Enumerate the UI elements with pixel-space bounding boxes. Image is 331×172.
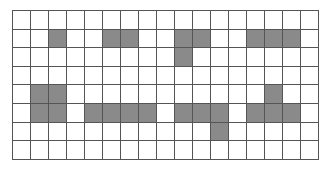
grid-cell-filled [210, 103, 228, 122]
grid-cell [102, 122, 120, 141]
grid-cell [210, 10, 228, 29]
grid-cell [156, 84, 174, 103]
grid-cell-filled [48, 103, 66, 122]
grid-cell [246, 47, 264, 66]
grid-cell [66, 103, 84, 122]
grid-cell [228, 103, 246, 122]
grid-cell [174, 140, 192, 159]
grid-cell [120, 10, 138, 29]
grid-cell [264, 10, 282, 29]
grid-cell [48, 66, 66, 85]
grid-cell [228, 66, 246, 85]
grid-cell [84, 122, 102, 141]
grid-cell [66, 122, 84, 141]
grid-cell [66, 10, 84, 29]
grid-cell [300, 84, 318, 103]
grid-cell [138, 47, 156, 66]
grid-cell-filled [264, 84, 282, 103]
grid-cell-filled [282, 29, 300, 48]
grid-cell [156, 47, 174, 66]
grid-cell [174, 84, 192, 103]
grid-cell-filled [102, 29, 120, 48]
grid-cell [84, 10, 102, 29]
grid-cell [192, 10, 210, 29]
grid-cell-filled [264, 29, 282, 48]
grid-cell [282, 122, 300, 141]
grid-cell [228, 47, 246, 66]
grid-cell-filled [48, 84, 66, 103]
grid-cell [156, 140, 174, 159]
grid-cell [210, 84, 228, 103]
grid-cell [12, 103, 30, 122]
grid-cell [30, 122, 48, 141]
grid-cell [30, 140, 48, 159]
grid-cell [84, 140, 102, 159]
grid-cell [30, 10, 48, 29]
grid-cell-filled [174, 103, 192, 122]
grid-cell [120, 140, 138, 159]
grid-cell [66, 47, 84, 66]
grid-cell [66, 84, 84, 103]
grid-cell [12, 122, 30, 141]
grid-cell [138, 66, 156, 85]
grid-cell [138, 10, 156, 29]
grid-cell-filled [174, 47, 192, 66]
grid-cell [156, 29, 174, 48]
grid-cell [156, 103, 174, 122]
grid-cell [264, 47, 282, 66]
grid-cell-filled [48, 29, 66, 48]
grid-cell-filled [120, 29, 138, 48]
grid-cell [48, 140, 66, 159]
grid-cell [156, 10, 174, 29]
grid-cell [102, 140, 120, 159]
grid-cell-filled [282, 103, 300, 122]
grid-cell [228, 29, 246, 48]
grid-cell [228, 140, 246, 159]
grid-cell-filled [192, 29, 210, 48]
grid-cell [30, 29, 48, 48]
grid-cell [282, 84, 300, 103]
grid-cell [192, 140, 210, 159]
shaded-grid [12, 10, 319, 160]
grid-cell [66, 29, 84, 48]
grid-cell [12, 84, 30, 103]
grid-cell [282, 140, 300, 159]
grid-cell [264, 66, 282, 85]
grid-cell [282, 66, 300, 85]
grid-cell-filled [174, 29, 192, 48]
grid-cell [138, 122, 156, 141]
grid-cell-filled [102, 103, 120, 122]
grid-cell [246, 122, 264, 141]
grid-cell [228, 122, 246, 141]
grid-cell [48, 10, 66, 29]
grid-cell [210, 47, 228, 66]
grid-cell [84, 29, 102, 48]
grid-cell [120, 84, 138, 103]
grid-cell [246, 10, 264, 29]
grid-cell [30, 66, 48, 85]
grid-cell [120, 122, 138, 141]
grid-cell [210, 140, 228, 159]
grid-cell [120, 66, 138, 85]
grid-cell [156, 66, 174, 85]
grid-cell [84, 66, 102, 85]
grid-cell [192, 122, 210, 141]
grid-cell [102, 66, 120, 85]
grid-cell [12, 10, 30, 29]
grid-cell-filled [30, 84, 48, 103]
grid-cell [210, 66, 228, 85]
grid-cell [48, 122, 66, 141]
grid-cell [138, 140, 156, 159]
grid-cell [84, 47, 102, 66]
grid-cell-filled [210, 122, 228, 141]
grid-cell [138, 84, 156, 103]
grid-cell [210, 29, 228, 48]
grid-cell [192, 66, 210, 85]
grid-cell [264, 122, 282, 141]
grid-cell [120, 47, 138, 66]
grid-cell-filled [30, 103, 48, 122]
grid-cell [246, 140, 264, 159]
grid-cell [228, 84, 246, 103]
grid-cell [264, 140, 282, 159]
grid-cell [300, 66, 318, 85]
